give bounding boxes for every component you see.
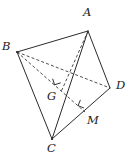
geometry-figure: A B C D G M <box>0 0 133 163</box>
vertex-label-a: A <box>83 7 91 19</box>
geometry-canvas <box>0 0 133 163</box>
edge-a-b <box>17 31 88 52</box>
point-label-g: G <box>47 91 56 103</box>
vertex-label-c: C <box>47 143 56 155</box>
edge-b-d <box>17 52 110 88</box>
right-angle-mark-m <box>78 100 86 108</box>
vertex-dot-b <box>16 51 18 53</box>
right-angle-mark-g <box>53 77 61 85</box>
segment-a-g <box>61 31 88 92</box>
edge-a-d <box>88 31 110 88</box>
point-label-m: M <box>87 115 99 127</box>
vertex-label-d: D <box>116 80 125 92</box>
vertex-dot-c <box>51 138 53 140</box>
vertex-label-b: B <box>2 41 10 53</box>
